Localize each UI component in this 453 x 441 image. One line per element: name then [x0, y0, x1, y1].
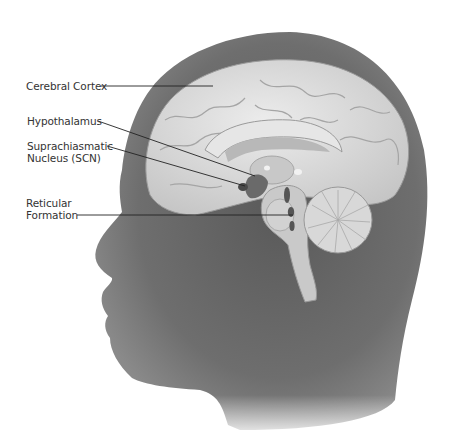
cerebellum: [304, 187, 372, 253]
label-hypothalamus: Hypothalamus: [27, 115, 102, 127]
label-cerebral-cortex: Cerebral Cortex: [26, 80, 107, 92]
label-scn: Suprachiasmatic Nucleus (SCN): [27, 140, 113, 164]
label-reticular-formation: Reticular Formation: [26, 197, 78, 221]
